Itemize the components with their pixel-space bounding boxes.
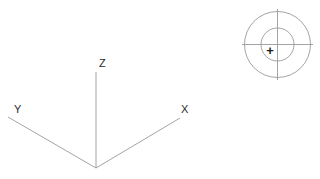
axes-and-target-figure: Z Y X + bbox=[0, 0, 320, 179]
drawing-canvas: Z Y X + bbox=[0, 0, 320, 179]
canvas-background bbox=[0, 0, 320, 179]
z-axis-label: Z bbox=[99, 57, 106, 69]
target-center-plus-marker: + bbox=[266, 43, 274, 58]
x-axis-label: X bbox=[181, 103, 189, 115]
y-axis-label: Y bbox=[14, 103, 22, 115]
